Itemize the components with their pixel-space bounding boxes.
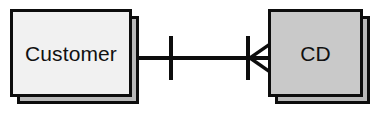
entity-cd-label: CD <box>300 43 331 64</box>
er-diagram-canvas: Customer CD <box>0 0 379 117</box>
entity-customer-body[interactable]: Customer <box>10 9 132 97</box>
cardinality-one-bar <box>169 36 173 80</box>
entity-customer[interactable]: Customer <box>10 9 132 97</box>
entity-cd-body[interactable]: CD <box>268 9 363 97</box>
entity-customer-label: Customer <box>25 43 117 64</box>
entity-cd[interactable]: CD <box>268 9 363 97</box>
